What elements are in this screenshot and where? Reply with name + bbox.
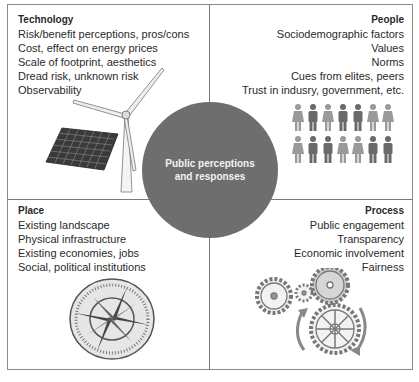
list-item: Norms bbox=[242, 55, 404, 69]
list-item: Public engagement bbox=[294, 218, 404, 232]
compass-rose-icon bbox=[67, 275, 157, 363]
list-item: Transparency bbox=[294, 232, 404, 246]
list-item: Trust in indusry, government, etc. bbox=[242, 83, 404, 97]
quadrant-process: Process Public engagement Transparency E… bbox=[294, 204, 404, 274]
list-item: Social, political institutions bbox=[18, 260, 146, 274]
list-item: Physical infrastructure bbox=[18, 232, 146, 246]
center-label: Public perceptions and responses bbox=[165, 157, 254, 183]
quadrant-title: Place bbox=[18, 204, 146, 218]
quadrant-title: Process bbox=[294, 204, 404, 218]
list-item: Risk/benefit perceptions, pros/cons bbox=[18, 27, 189, 41]
people-group-icon bbox=[292, 104, 404, 166]
list-item: Economic involvement bbox=[294, 246, 404, 260]
quadrant-people: People Sociodemographic factors Values N… bbox=[242, 13, 404, 97]
quadrant-title: People bbox=[242, 13, 404, 27]
list-item: Existing economies, jobs bbox=[18, 246, 146, 260]
list-item: Existing landscape bbox=[18, 218, 146, 232]
list-item: Sociodemographic factors bbox=[242, 27, 404, 41]
center-circle: Public perceptions and responses bbox=[142, 102, 278, 238]
quadrant-title: Technology bbox=[18, 13, 189, 27]
solar-panel-icon bbox=[44, 126, 120, 172]
list-item: Cost, effect on energy prices bbox=[18, 41, 189, 55]
center-label-line2: and responses bbox=[165, 170, 254, 183]
center-label-line1: Public perceptions bbox=[165, 157, 254, 170]
list-item: Values bbox=[242, 41, 404, 55]
quadrant-place: Place Existing landscape Physical infras… bbox=[18, 204, 146, 274]
list-item: Cues from elites, peers bbox=[242, 69, 404, 83]
gears-icon bbox=[252, 268, 372, 358]
